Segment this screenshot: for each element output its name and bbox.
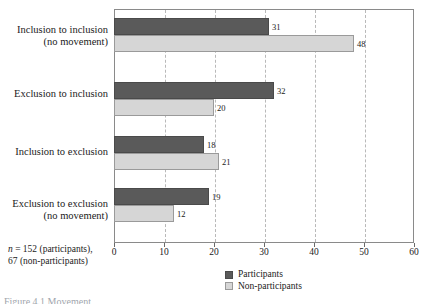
category-label-0: Inclusion to inclusion (no movement) — [0, 24, 108, 48]
bar-value-label-non-participants-1: 20 — [217, 103, 226, 113]
bar-non-participants-1 — [114, 99, 214, 116]
x-tick-label-60: 60 — [409, 247, 419, 258]
bar-value-label-participants-0: 31 — [272, 22, 281, 32]
sample-size-footnote: n = 152 (participants), 67 (non-particip… — [8, 244, 128, 267]
bar-value-label-participants-3: 19 — [212, 192, 221, 202]
legend-item-participants: Participants — [225, 269, 302, 281]
category-label-1: Exclusion to inclusion — [0, 88, 108, 100]
x-tick-label-40: 40 — [309, 247, 319, 258]
legend-swatch-participants-icon — [225, 271, 233, 279]
legend-item-non-participants: Non-participants — [225, 281, 302, 293]
category-label-2: Inclusion to exclusion — [0, 146, 108, 158]
category-label-3: Exclusion to exclusion (no movement) — [0, 198, 108, 222]
x-tick-label-30: 30 — [259, 247, 269, 258]
x-tick-label-50: 50 — [359, 247, 369, 258]
footnote-line2: 67 (non-participants) — [8, 256, 88, 266]
figure-caption: Figure 4.1 Movement — [4, 296, 91, 304]
legend-swatch-non-participants-icon — [225, 282, 233, 290]
bar-value-label-non-participants-0: 48 — [357, 39, 366, 49]
x-tick-label-10: 10 — [159, 247, 169, 258]
bar-non-participants-0 — [114, 35, 354, 52]
bar-value-label-participants-1: 32 — [277, 86, 286, 96]
bar-non-participants-3 — [114, 205, 174, 222]
bar-participants-3 — [114, 188, 209, 205]
x-tick-label-20: 20 — [209, 247, 219, 258]
bar-value-label-non-participants-3: 12 — [177, 209, 186, 219]
bar-participants-1 — [114, 82, 274, 99]
bar-participants-2 — [114, 136, 204, 153]
footnote-line1: = 152 (participants), — [13, 244, 93, 254]
legend: Participants Non-participants — [225, 269, 302, 292]
bar-non-participants-2 — [114, 153, 219, 170]
bar-participants-0 — [114, 18, 269, 35]
bar-value-label-non-participants-2: 21 — [222, 157, 231, 167]
bar-value-label-participants-2: 18 — [207, 140, 216, 150]
bar-chart: Inclusion to inclusion (no movement) Exc… — [0, 0, 437, 304]
legend-label-non-participants: Non-participants — [238, 281, 302, 293]
legend-label-participants: Participants — [238, 269, 283, 281]
